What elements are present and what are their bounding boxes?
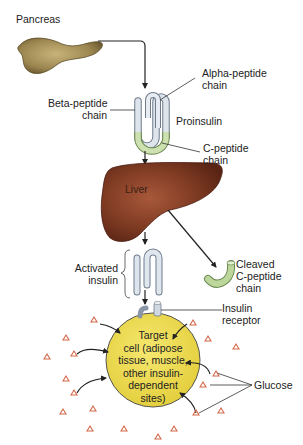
label-cleaved-line1: Cleaved: [236, 258, 282, 270]
label-cleaved-cpeptide-chain: Cleaved C-peptide chain: [236, 258, 282, 294]
target-cell-line-4: other insulin-: [103, 367, 203, 380]
glucose-leaders: [199, 373, 252, 413]
label-target-cell: Target cell (adipose tissue, muscle, oth…: [103, 329, 203, 404]
label-cpeptide-chain: C-peptide chain: [203, 142, 249, 166]
liver-illustration: [101, 163, 222, 242]
label-alpha-line2: chain: [202, 79, 267, 91]
arrow-liver-to-cleaved-cpeptide: [168, 210, 216, 267]
target-cell-line-2: cell (adipose: [103, 342, 203, 355]
label-activated-line2: insulin: [60, 274, 118, 286]
label-cleaved-line3: chain: [236, 282, 282, 294]
target-cell-line-3: tissue, muscle,: [103, 354, 203, 367]
label-cleaved-line2: C-peptide: [236, 270, 282, 282]
label-activated-line1: Activated: [60, 262, 118, 274]
insulin-pathway-diagram: Pancreas Alpha-peptide chain Beta-peptid…: [0, 0, 303, 445]
label-cpeptide-line1: C-peptide: [203, 142, 249, 154]
label-activated-insulin: Activated insulin: [60, 262, 118, 286]
label-glucose: Glucose: [254, 379, 293, 391]
label-pancreas: Pancreas: [16, 13, 60, 25]
activated-insulin-illustration: [137, 252, 159, 292]
label-cpeptide-line2: chain: [203, 154, 249, 166]
label-liver: Liver: [125, 183, 148, 195]
label-beta-line1: Beta-peptide: [48, 97, 107, 109]
label-receptor-line1: Insulin: [222, 302, 261, 314]
label-receptor-line2: receptor: [222, 314, 261, 326]
leader-alpha: [160, 78, 195, 100]
leader-cpeptide: [162, 143, 200, 152]
proinsulin-illustration: [138, 91, 166, 151]
arrow-pancreas-to-proinsulin: [98, 41, 145, 88]
label-alpha-peptide-chain: Alpha-peptide chain: [202, 67, 267, 91]
label-alpha-line1: Alpha-peptide: [202, 67, 267, 79]
target-cell-line-6: sites): [103, 392, 203, 405]
target-cell-line-5: dependent: [103, 379, 203, 392]
activated-insulin-bracket: [121, 250, 130, 298]
label-beta-peptide-chain: Beta-peptide chain: [48, 97, 107, 121]
pancreas-illustration: [18, 38, 103, 73]
label-proinsulin: Proinsulin: [176, 115, 222, 127]
label-insulin-receptor: Insulin receptor: [222, 302, 261, 326]
target-cell-line-1: Target: [103, 329, 203, 342]
label-beta-line2: chain: [48, 109, 107, 121]
cleaved-cpeptide-illustration: [208, 261, 235, 284]
